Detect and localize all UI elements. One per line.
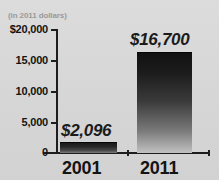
bar-value-label-2001: $2,096 [61, 122, 111, 139]
bar-value-label-2011: $16,700 [130, 31, 189, 48]
x-tick-mark-between-categories [127, 150, 129, 156]
bar-2001 [60, 142, 117, 153]
category-label-2001: 2001 [62, 159, 101, 177]
y-tick-mark-5000 [51, 122, 57, 124]
y-tick-mark-20000 [51, 29, 57, 31]
x-tick-mark-right-end [208, 150, 210, 156]
bar-2011 [137, 52, 192, 153]
y-tick-label-5000: 5,000 [21, 117, 48, 128]
y-tick-label-0: 0 [42, 147, 48, 158]
bar-chart-figure: (in 2011 dollars) $20,000 15,000 10,000 … [0, 0, 219, 180]
units-caption: (in 2011 dollars) [8, 11, 67, 20]
y-tick-mark-10000 [51, 91, 57, 93]
y-tick-label-15000: 15,000 [16, 55, 48, 66]
y-tick-label-10000: 10,000 [16, 86, 48, 97]
y-tick-label-20000: $20,000 [10, 24, 48, 35]
y-tick-mark-15000 [51, 60, 57, 62]
category-label-2011: 2011 [140, 159, 178, 177]
